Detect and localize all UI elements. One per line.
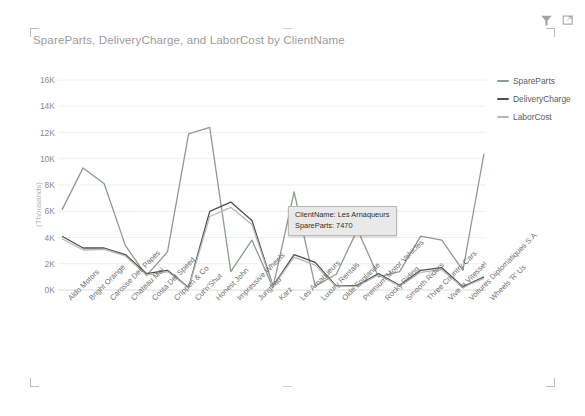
legend-swatch <box>497 80 509 82</box>
x-axis-tick: Karz <box>277 285 294 302</box>
legend-swatch <box>497 98 509 100</box>
tooltip-value: SpareParts: 7470 <box>295 221 390 232</box>
legend-label: SpareParts <box>513 76 555 86</box>
legend-item[interactable]: LaborCost <box>497 112 571 122</box>
legend-label: DeliveryCharge <box>513 94 571 104</box>
legend-swatch <box>497 116 509 118</box>
legend-label: LaborCost <box>513 112 552 122</box>
legend-item[interactable]: DeliveryCharge <box>497 94 571 104</box>
line-chart-visual[interactable]: SpareParts, DeliveryCharge, and LaborCos… <box>0 0 585 416</box>
tooltip-category: ClientName: Les Arnaqueurs <box>295 210 390 221</box>
chart-tooltip: ClientName: Les Arnaqueurs SpareParts: 7… <box>288 206 397 236</box>
legend-item[interactable]: SpareParts <box>497 76 571 86</box>
chart-legend: SparePartsDeliveryChargeLaborCost <box>497 76 571 122</box>
